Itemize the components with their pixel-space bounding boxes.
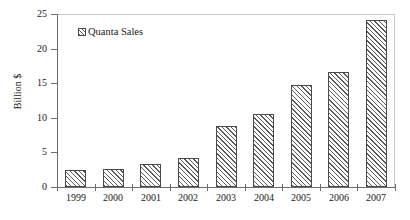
y-tick [51,118,58,119]
x-tick [282,184,283,191]
y-tick-label: 25 [7,9,47,19]
hatched-square-icon [78,28,86,36]
y-tick [51,14,58,15]
bar-2001 [140,164,161,187]
x-tick [245,184,246,191]
bar-2000 [103,169,124,187]
x-tick [132,184,133,191]
y-tick-label: 10 [7,113,47,123]
x-tick [357,184,358,191]
y-axis-title: Billion $ [12,44,23,140]
bar-1999 [65,170,86,187]
chart-legend: Quanta Sales [78,26,143,37]
y-tick [51,152,58,153]
y-tick [51,49,58,50]
y-axis-line [57,14,58,187]
bar-2005 [291,85,312,187]
x-tick [170,184,171,191]
y-tick-label: 5 [7,147,47,157]
x-tick [395,184,396,191]
bar-2006 [328,72,349,187]
y-tick-label: 20 [7,44,47,54]
bar-2004 [253,114,274,187]
x-tick [95,184,96,191]
x-tick [57,184,58,191]
y-tick-label: 15 [7,78,47,88]
bar-2003 [216,126,237,187]
x-axis-line [57,187,396,188]
bar-chart: Billion $ 0510152025 1999200020012002200… [0,0,410,220]
bar-2002 [178,158,199,187]
y-tick-label: 0 [7,182,47,192]
legend-item-label: Quanta Sales [88,26,143,37]
x-tick [320,184,321,191]
bar-2007 [366,20,387,187]
x-tick [207,184,208,191]
y-tick [51,83,58,84]
x-tick-label: 2007 [354,192,398,204]
